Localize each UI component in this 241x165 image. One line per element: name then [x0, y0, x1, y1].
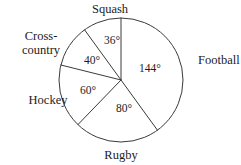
category-label-cross-country-line2: country	[22, 43, 61, 57]
angle-label-football: 144°	[139, 62, 161, 74]
category-label-cross-country: Cross-country	[22, 29, 61, 57]
pie-chart-figure: 144°80°60°40°36° FootballRugbyHockeyCros…	[0, 0, 241, 165]
angle-label-rugby: 80°	[116, 102, 133, 114]
category-label-football: Football	[198, 53, 240, 67]
angle-label-cross-country: 40°	[84, 54, 101, 66]
angle-label-hockey: 60°	[80, 84, 97, 96]
category-label-rugby: Rugby	[104, 148, 138, 162]
pie-chart-canvas: 144°80°60°40°36° FootballRugbyHockeyCros…	[0, 0, 241, 165]
category-label-hockey: Hockey	[29, 93, 69, 107]
category-label-squash: Squash	[92, 2, 129, 16]
angle-label-squash: 36°	[104, 34, 121, 46]
